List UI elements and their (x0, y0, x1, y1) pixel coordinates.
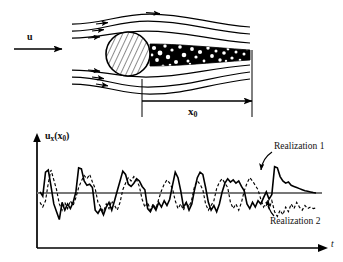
y-axis-label: ux(x0) (45, 130, 69, 143)
x-axis-label: t (331, 239, 334, 249)
x-axis-arrowhead (318, 244, 328, 252)
x0-label-subscript: 0 (194, 110, 198, 119)
y-label-arg-open: (x (54, 130, 62, 141)
cylinder-wake-flow-diagram (14, 13, 252, 117)
realization-1-label: Realization 1 (274, 141, 324, 151)
y-axis-arrowhead (33, 133, 41, 142)
realization-2-label: Realization 2 (270, 216, 320, 226)
cylinder-cross-section (106, 32, 150, 76)
realization-1-callout-arrow (261, 152, 272, 170)
turbulent-wake-region (150, 42, 250, 68)
y-label-arg-close: ) (66, 130, 69, 141)
x0-dimension-label: x0 (188, 105, 197, 119)
figure-root: u x0 ux(x0) Realization 1 Realization 2 … (0, 0, 343, 262)
inlet-velocity-label: u (27, 31, 33, 42)
